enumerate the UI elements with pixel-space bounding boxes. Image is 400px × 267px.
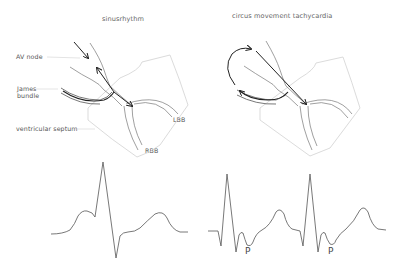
rbb-outer — [124, 106, 138, 150]
arrow-into-av-node — [74, 42, 88, 58]
rbb-outer — [300, 106, 312, 150]
lbb-inner — [302, 100, 352, 114]
leader-av-node — [47, 57, 80, 58]
rbb-inner — [308, 106, 317, 146]
his-left — [104, 90, 122, 106]
arrow-circus-loop — [228, 48, 251, 85]
arrow-antegrade-av — [256, 51, 306, 104]
ecg-circus-movement-tachycardia — [208, 174, 386, 252]
lbb-outer — [134, 103, 172, 117]
rbb-inner — [132, 106, 142, 145]
arrow-retrograde-his — [97, 68, 114, 92]
his-right — [110, 86, 130, 104]
right-heart-schematic — [228, 41, 360, 156]
arrow-antegrade-his — [114, 92, 132, 106]
lbb-inner — [126, 100, 178, 114]
ventricular-septum-outline — [88, 55, 188, 157]
diagram-drawing — [0, 0, 400, 267]
ecg-sinus-rhythm — [51, 162, 188, 258]
left-heart-schematic — [36, 42, 188, 157]
av-channel-right-wall — [90, 43, 110, 86]
